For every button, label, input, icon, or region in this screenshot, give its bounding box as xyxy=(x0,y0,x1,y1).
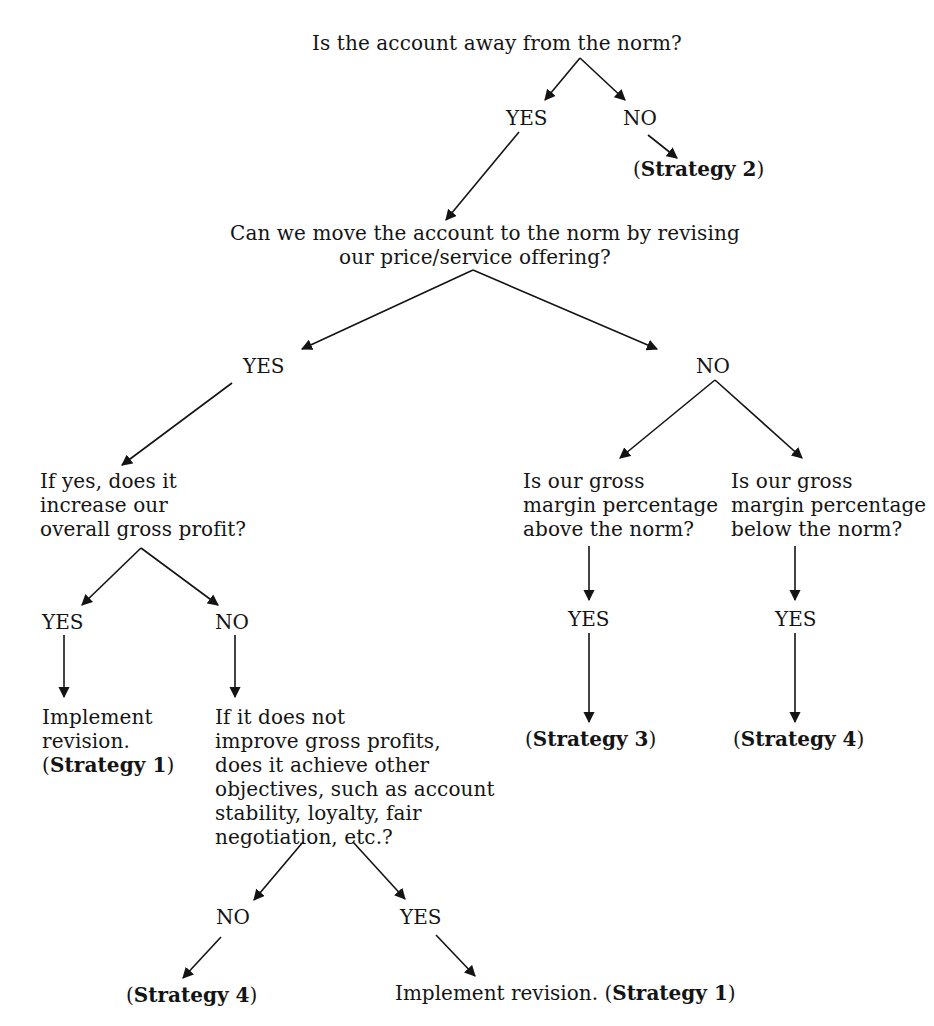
strategy-2-outcome: (Strategy 2) xyxy=(633,157,764,181)
ifnot-line5: stability, loyalty, fair xyxy=(215,800,422,826)
above-line3: above the norm? xyxy=(523,516,694,542)
arrow-root-no xyxy=(580,58,625,100)
arrow-q2-no xyxy=(473,270,657,349)
strategy-4-outcome-right: (Strategy 4) xyxy=(733,727,864,751)
arrow-ifyes-yes xyxy=(82,548,141,605)
arrow-yes-ifyes xyxy=(122,383,232,465)
decision-tree-diagram: . . . . . . . Is the account away from t… xyxy=(0,0,934,1026)
arrow-no-strategy2 xyxy=(648,135,677,158)
ifnot-line6: negotiation, etc.? xyxy=(215,824,393,850)
ifnot-line3: does it achieve other xyxy=(215,752,429,778)
arrow-no-above xyxy=(620,380,715,458)
strategy-4-outcome-left: (Strategy 4) xyxy=(126,983,257,1007)
strategy-1-outcome-left: (Strategy 1) xyxy=(42,752,174,778)
strategy-3-outcome: (Strategy 3) xyxy=(525,727,656,751)
arrow-no-below xyxy=(715,380,802,458)
ifyes-line2: increase our xyxy=(40,492,168,518)
ifyes-line1: If yes, does it xyxy=(40,468,177,494)
below-yes-label: YES xyxy=(775,607,817,631)
ifnot-line1: If it does not xyxy=(215,704,345,730)
ifyes-no-label: NO xyxy=(215,610,249,634)
q2-line1: Can we move the account to the norm by r… xyxy=(230,220,720,246)
ifnot-line4: objectives, such as account xyxy=(215,776,495,802)
arrow-no-strategy4 xyxy=(183,937,221,978)
arrow-ifyes-no xyxy=(141,548,218,605)
root-no-label: NO xyxy=(623,106,657,130)
arrow-yes-q2 xyxy=(446,132,519,220)
above-yes-label: YES xyxy=(568,607,610,631)
root-question: Is the account away from the norm? xyxy=(312,30,682,56)
above-line2: margin percentage xyxy=(523,492,718,518)
implement-line1: Implement xyxy=(42,704,153,730)
neg-no-label: NO xyxy=(216,905,250,929)
arrow-q2-yes xyxy=(302,270,473,349)
neg-yes-label: YES xyxy=(400,905,442,929)
below-line3: below the norm? xyxy=(731,516,902,542)
arrow-neg-yes xyxy=(353,842,405,899)
q2-line2: our price/service offering? xyxy=(230,244,720,270)
arrow-root-yes xyxy=(545,58,580,100)
ifyes-yes-label: YES xyxy=(42,610,84,634)
cut-off-header: . . . . . . . xyxy=(300,0,660,4)
below-line1: Is our gross xyxy=(731,468,853,494)
implement-revision-strategy-1: Implement revision. (Strategy 1) xyxy=(395,981,736,1005)
implement-line2: revision. xyxy=(42,728,130,754)
above-line1: Is our gross xyxy=(523,468,645,494)
arrow-yes-implement-revision xyxy=(436,935,475,976)
ifnot-line2: improve gross profits, xyxy=(215,728,441,754)
arrow-neg-no xyxy=(254,842,303,900)
ifyes-line3: overall gross profit? xyxy=(40,516,246,542)
root-yes-label: YES xyxy=(506,106,548,130)
q2-yes-label: YES xyxy=(243,354,285,378)
q2-no-label: NO xyxy=(696,354,730,378)
below-line2: margin percentage xyxy=(731,492,926,518)
